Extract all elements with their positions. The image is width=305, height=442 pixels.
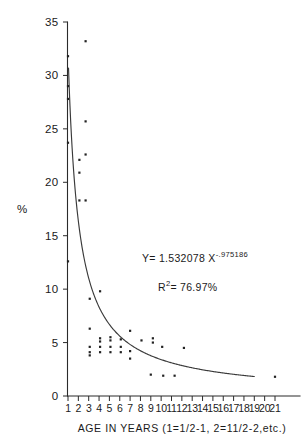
x-axis: 123456789101112131415161718192021: [65, 396, 300, 414]
x-tick-label: 7: [127, 402, 133, 414]
data-point: [109, 351, 111, 353]
data-point: [99, 351, 101, 353]
x-axis-tick-labels: 123456789101112131415161718192021: [65, 402, 281, 414]
power-law-fit-curve: [69, 68, 255, 376]
data-point: [150, 374, 152, 376]
data-point: [109, 346, 111, 348]
scatter-plot-figure: 05101520253035 % 12345678910111213141516…: [0, 0, 305, 442]
data-point: [162, 375, 164, 377]
data-point: [109, 339, 111, 341]
data-point: [85, 120, 87, 122]
data-point: [85, 153, 87, 155]
y-axis-label: %: [17, 203, 27, 215]
data-point: [120, 346, 122, 348]
data-point: [152, 337, 154, 339]
y-tick-label: 30: [45, 69, 59, 81]
data-point: [78, 172, 80, 174]
data-point: [89, 354, 91, 356]
data-point: [99, 290, 101, 292]
y-tick-label: 20: [45, 176, 59, 188]
data-point: [152, 341, 154, 343]
x-tick-label: 5: [107, 402, 113, 414]
x-tick-label: 1: [65, 402, 71, 414]
data-point: [78, 199, 80, 201]
y-tick-label: 15: [45, 230, 59, 242]
x-tick-label: 4: [96, 402, 102, 414]
data-point: [129, 330, 131, 332]
data-point: [67, 85, 69, 87]
data-point: [140, 339, 142, 341]
data-point: [89, 328, 91, 330]
data-point: [89, 351, 91, 353]
x-tick-label: 8: [138, 402, 144, 414]
data-point: [129, 350, 131, 352]
data-point: [99, 346, 101, 348]
r-squared-text: R2= 76.97%: [158, 279, 217, 293]
data-point: [89, 298, 91, 300]
data-point: [129, 358, 131, 360]
data-point: [67, 142, 69, 144]
regression-equation-annotation: Y= 1.532078 X-.975186: [142, 250, 248, 264]
y-tick-label: 35: [45, 16, 59, 28]
y-tick-label: 5: [52, 337, 59, 349]
data-point: [274, 376, 276, 378]
data-point: [99, 337, 101, 339]
data-point: [161, 346, 163, 348]
y-axis-ticks: [63, 22, 68, 396]
data-point: [99, 340, 101, 342]
data-point: [89, 346, 91, 348]
data-point: [109, 336, 111, 338]
y-tick-label: 25: [45, 123, 59, 135]
data-point: [67, 260, 69, 262]
regression-equation-text: Y= 1.532078 X-.975186: [142, 250, 248, 264]
data-point: [78, 159, 80, 161]
data-point: [174, 375, 176, 377]
y-axis: 05101520253035: [45, 16, 68, 402]
x-tick-label: 9: [148, 402, 154, 414]
x-axis-ticks: [68, 396, 275, 401]
data-point: [183, 347, 185, 349]
data-point: [120, 351, 122, 353]
y-tick-label: 10: [45, 283, 59, 295]
data-point: [85, 40, 87, 42]
data-point: [120, 338, 122, 340]
data-point: [85, 199, 87, 201]
y-axis-tick-labels: 05101520253035: [45, 16, 59, 402]
data-point: [67, 55, 69, 57]
r-squared-annotation: R2= 76.97%: [158, 279, 217, 293]
chart-svg: 05101520253035 % 12345678910111213141516…: [0, 0, 305, 442]
x-axis-label: AGE IN YEARS (1=1/2-1, 2=11/2-2,etc.): [78, 422, 287, 434]
data-point: [67, 98, 69, 100]
y-tick-label: 0: [52, 390, 59, 402]
x-tick-label: 21: [269, 402, 281, 414]
x-tick-label: 2: [76, 402, 82, 414]
x-tick-label: 3: [86, 402, 92, 414]
x-tick-label: 6: [117, 402, 123, 414]
scatter-data-points: [67, 40, 276, 378]
